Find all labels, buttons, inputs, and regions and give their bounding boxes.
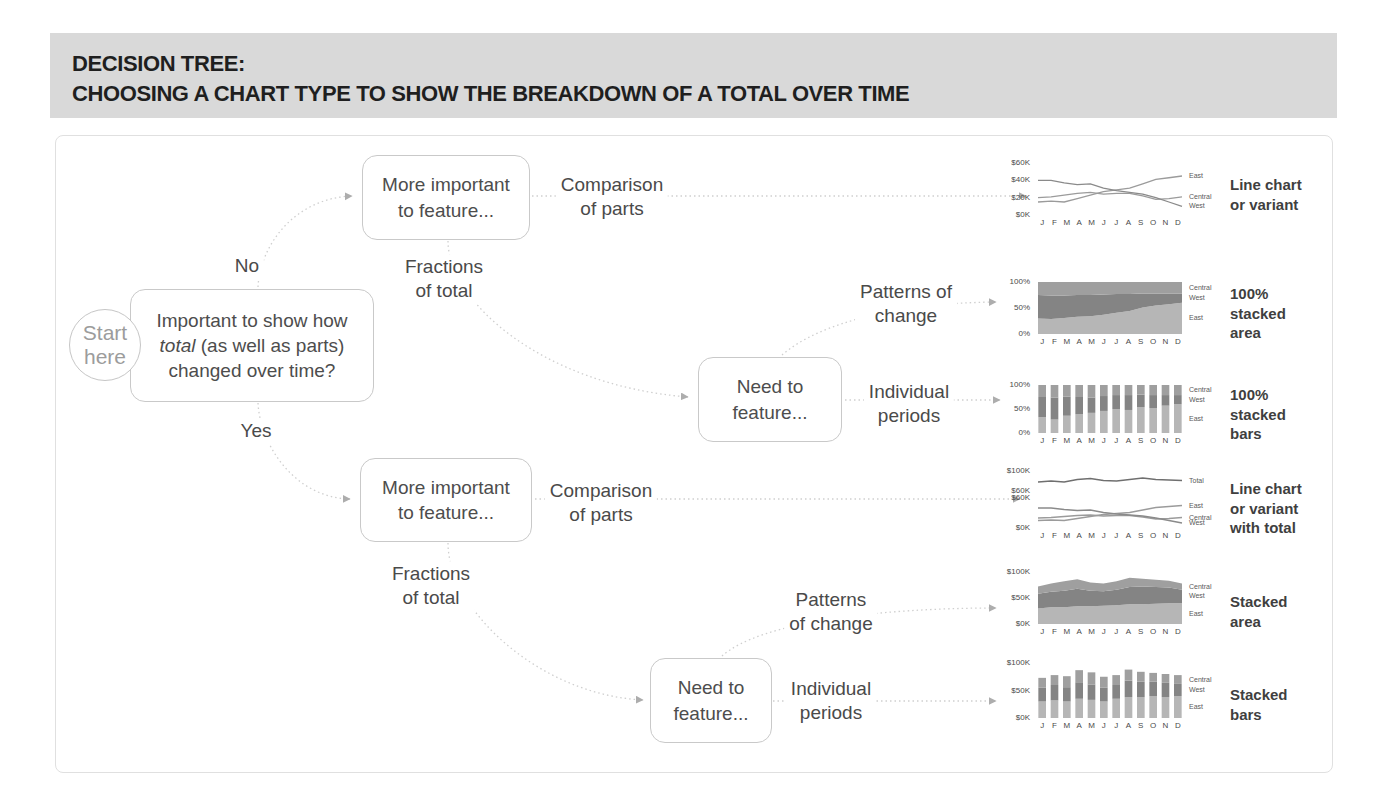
y-axis-tick-label: $0K: [998, 523, 1030, 533]
legend-label-central: Central: [1189, 386, 1212, 394]
y-axis-tick-label: $100K: [998, 466, 1030, 476]
x-axis-labels: JFMAMJJASOND: [1036, 337, 1184, 346]
y-axis-tick-label: 100%: [998, 277, 1030, 287]
node-more-important-top: More important to feature...: [362, 155, 530, 240]
chart-type-label: Line chart or variant: [1230, 175, 1302, 214]
question-line1: Important to show how: [156, 308, 347, 333]
y-axis-tick-label: 50%: [998, 303, 1030, 313]
edge-label-comparison-of-parts-bottom: Comparison of parts: [545, 478, 657, 528]
y-axis-tick-label: $40K: [998, 175, 1030, 185]
chart-plot: [1036, 163, 1184, 215]
y-axis-tick-label: $0K: [998, 619, 1030, 629]
chart-type-label: 100% stacked area: [1230, 284, 1286, 343]
legend-label-central: Central: [1189, 284, 1212, 292]
chart-plot: [1036, 385, 1184, 433]
legend-label-central: Central: [1189, 676, 1212, 684]
legend-label-west: West: [1189, 294, 1205, 302]
legend-label-west: West: [1189, 686, 1205, 694]
legend-label-east: East: [1189, 172, 1203, 180]
edge-label-fractions-of-total-top: Fractions of total: [400, 254, 488, 304]
y-axis-tick-label: $60K: [998, 493, 1030, 503]
edge-label-patterns-of-change-bottom: Patterns of change: [784, 587, 877, 637]
x-axis-labels: JFMAMJJASOND: [1036, 531, 1184, 540]
chart-type-label: Stacked bars: [1230, 685, 1288, 724]
question-line3: changed over time?: [169, 358, 336, 383]
legend-label-east: East: [1189, 314, 1203, 322]
legend-label-west: West: [1189, 592, 1205, 600]
x-axis-labels: JFMAMJJASOND: [1036, 627, 1184, 636]
legend-label-west: West: [1189, 519, 1205, 527]
chart-type-label: 100% stacked bars: [1230, 385, 1286, 444]
x-axis-labels: JFMAMJJASOND: [1036, 721, 1184, 730]
legend-label-total: Total: [1189, 477, 1204, 485]
x-axis-labels: JFMAMJJASOND: [1036, 218, 1184, 227]
legend-label-central: Central: [1189, 583, 1212, 591]
legend-label-central: Central: [1189, 193, 1212, 201]
legend-label-east: East: [1189, 502, 1203, 510]
chart-type-label: Stacked area: [1230, 592, 1288, 631]
legend-label-east: East: [1189, 610, 1203, 618]
chart-plot: [1036, 282, 1184, 334]
legend-label-east: East: [1189, 703, 1203, 711]
y-axis-tick-label: 0%: [998, 329, 1030, 339]
node-need-to-feature-bottom: Need to feature...: [650, 658, 772, 743]
connector-question-to-more1: [258, 196, 352, 287]
edge-label-patterns-of-change-top: Patterns of change: [855, 279, 957, 329]
edge-label-no: No: [230, 253, 264, 279]
question-node: Important to show how total (as well as …: [130, 289, 374, 402]
question-line2: total (as well as parts): [160, 333, 345, 358]
edge-label-individual-periods-bottom: Individual periods: [786, 676, 876, 726]
start-here-node: Start here: [69, 309, 141, 381]
chart-plot: [1036, 663, 1184, 718]
chart-plot: [1036, 572, 1184, 624]
y-axis-tick-label: 50%: [998, 404, 1030, 414]
edge-label-comparison-of-parts-top: Comparison of parts: [556, 172, 668, 222]
y-axis-tick-label: $60K: [998, 158, 1030, 168]
y-axis-tick-label: 0%: [998, 428, 1030, 438]
node-more-important-bottom: More important to feature...: [360, 458, 532, 542]
question-italic-total: total: [160, 335, 196, 356]
chart-plot: [1036, 471, 1184, 491]
y-axis-tick-label: $100K: [998, 567, 1030, 577]
node-need-to-feature-top: Need to feature...: [698, 357, 842, 442]
y-axis-tick-label: $50K: [998, 686, 1030, 696]
y-axis-tick-label: $100K: [998, 658, 1030, 668]
legend-label-west: West: [1189, 396, 1205, 404]
y-axis-tick-label: $50K: [998, 593, 1030, 603]
y-axis-tick-label: 100%: [998, 380, 1030, 390]
edge-label-fractions-of-total-bottom: Fractions of total: [387, 561, 475, 611]
y-axis-tick-label: $0K: [998, 210, 1030, 220]
chart-type-label: Line chart or variant with total: [1230, 479, 1302, 538]
edge-label-individual-periods-top: Individual periods: [864, 379, 954, 429]
legend-label-west: West: [1189, 202, 1205, 210]
edge-label-yes: Yes: [236, 418, 277, 444]
y-axis-tick-label: $0K: [998, 713, 1030, 723]
decision-tree-page: DECISION TREE: CHOOSING A CHART TYPE TO …: [0, 0, 1375, 796]
x-axis-labels: JFMAMJJASOND: [1036, 436, 1184, 445]
connector-more2-to-need2: [448, 543, 643, 700]
y-axis-tick-label: $20K: [998, 193, 1030, 203]
chart-plot: [1036, 498, 1184, 528]
legend-label-east: East: [1189, 415, 1203, 423]
